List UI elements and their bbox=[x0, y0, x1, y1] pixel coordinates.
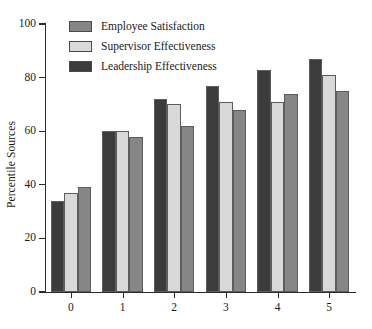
x-axis-tick-label: 5 bbox=[314, 302, 344, 314]
legend-item-label: Supervisor Effectiveness bbox=[101, 41, 215, 53]
chart-legend: Employee SatisfactionSupervisor Effectiv… bbox=[69, 20, 217, 73]
bar bbox=[167, 104, 181, 292]
x-axis-tick bbox=[71, 292, 72, 298]
x-axis-tick bbox=[174, 292, 175, 298]
x-axis-tick bbox=[123, 292, 124, 298]
bar bbox=[64, 193, 78, 292]
bar bbox=[271, 102, 285, 292]
y-axis-tick-label: 80 bbox=[0, 72, 36, 84]
bar bbox=[257, 70, 271, 292]
y-axis-title: Percentile Sources bbox=[0, 0, 22, 329]
bar bbox=[129, 137, 143, 292]
bar bbox=[181, 126, 195, 292]
y-axis-tick-label: 0 bbox=[0, 286, 36, 298]
x-axis-line bbox=[44, 292, 356, 293]
legend-swatch-icon bbox=[69, 21, 92, 32]
x-axis-tick bbox=[226, 292, 227, 298]
x-axis-tick-label: 1 bbox=[108, 302, 138, 314]
legend-item: Leadership Effectiveness bbox=[69, 60, 217, 73]
bar bbox=[322, 75, 336, 292]
legend-item-label: Leadership Effectiveness bbox=[101, 61, 217, 73]
bar bbox=[116, 131, 130, 292]
x-axis-tick-label: 0 bbox=[56, 302, 86, 314]
y-axis-tick-label: 60 bbox=[0, 125, 36, 137]
legend-swatch-icon bbox=[69, 41, 92, 52]
x-axis-tick-label: 2 bbox=[159, 302, 189, 314]
bar bbox=[102, 131, 116, 292]
legend-item: Supervisor Effectiveness bbox=[69, 40, 217, 53]
x-axis-tick bbox=[278, 292, 279, 298]
y-axis-tick-label: 20 bbox=[0, 232, 36, 244]
bar bbox=[336, 91, 350, 292]
bar bbox=[206, 86, 220, 292]
legend-swatch-icon bbox=[69, 61, 92, 72]
bar bbox=[233, 110, 247, 292]
y-axis-tick-label: 40 bbox=[0, 179, 36, 191]
bar bbox=[51, 201, 65, 292]
legend-item: Employee Satisfaction bbox=[69, 20, 217, 33]
x-axis-tick bbox=[329, 292, 330, 298]
bar bbox=[309, 59, 323, 292]
x-axis-tick-label: 3 bbox=[211, 302, 241, 314]
bar bbox=[284, 94, 298, 292]
bar bbox=[154, 99, 168, 292]
y-axis-tick-label: 100 bbox=[0, 18, 36, 30]
bar bbox=[219, 102, 233, 292]
legend-item-label: Employee Satisfaction bbox=[101, 21, 205, 33]
bar bbox=[78, 187, 92, 292]
x-axis-tick-label: 4 bbox=[263, 302, 293, 314]
bar-chart: Percentile Sources 020406080100 012345 E… bbox=[0, 0, 372, 329]
